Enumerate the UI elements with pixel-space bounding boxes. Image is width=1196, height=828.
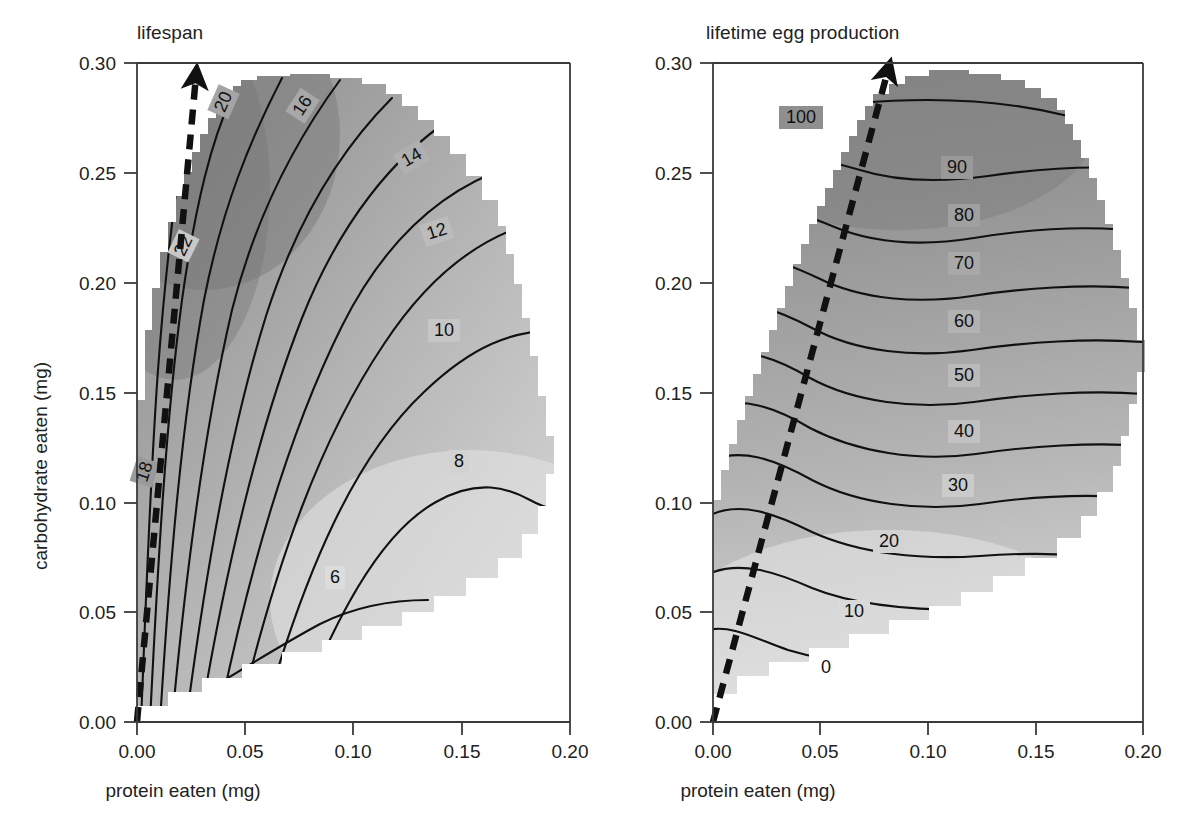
plot-svg-left: 22 20 16 14 12 [0, 0, 598, 828]
contour-label: 0 [821, 657, 831, 677]
contour-label: 10 [434, 320, 454, 340]
svg-text:0.25: 0.25 [79, 163, 116, 184]
svg-text:0.05: 0.05 [802, 741, 839, 762]
svg-text:0.15: 0.15 [1018, 741, 1055, 762]
x-tick-labels-right: 0.00 0.05 0.10 0.15 0.20 [695, 741, 1162, 762]
x-ticks-left [137, 722, 570, 735]
svg-text:0.10: 0.10 [79, 493, 116, 514]
svg-text:0.15: 0.15 [444, 741, 481, 762]
x-ticks-right [713, 722, 1143, 735]
contour-label: 8 [454, 451, 464, 471]
contour-label: 30 [948, 475, 968, 495]
svg-text:0.30: 0.30 [655, 53, 692, 74]
y-ticks-left [124, 63, 137, 722]
svg-text:0.10: 0.10 [335, 741, 372, 762]
plot-svg-right: 100 90 80 70 60 [598, 0, 1196, 828]
y-tick-labels-right: 0.00 0.05 0.10 0.15 0.20 0.25 0.30 [655, 53, 692, 733]
svg-text:0.25: 0.25 [655, 163, 692, 184]
contour-label: 60 [954, 311, 974, 331]
svg-text:0.20: 0.20 [1125, 741, 1162, 762]
contour-label: 80 [954, 205, 974, 225]
svg-text:0.00: 0.00 [655, 712, 692, 733]
contour-label: 50 [954, 365, 974, 385]
contour-label: 6 [330, 567, 340, 587]
figure-root: lifespan protein eaten (mg) carbohydrate… [0, 0, 1196, 828]
svg-text:0.20: 0.20 [552, 741, 589, 762]
svg-text:0.10: 0.10 [655, 493, 692, 514]
svg-text:0.05: 0.05 [655, 602, 692, 623]
contour-label: 70 [954, 253, 974, 273]
svg-text:0.20: 0.20 [79, 273, 116, 294]
svg-text:0.00: 0.00 [79, 712, 116, 733]
svg-text:0.00: 0.00 [695, 741, 732, 762]
surface-shading-right [668, 10, 1151, 750]
svg-text:0.05: 0.05 [227, 741, 264, 762]
svg-text:0.05: 0.05 [79, 602, 116, 623]
svg-text:0.20: 0.20 [655, 273, 692, 294]
svg-text:0.15: 0.15 [655, 383, 692, 404]
contour-label: 40 [954, 421, 974, 441]
y-tick-labels-left: 0.00 0.05 0.10 0.15 0.20 0.25 0.30 [79, 53, 116, 733]
y-ticks-right [700, 63, 713, 722]
contour-label: 90 [947, 157, 967, 177]
svg-text:0.00: 0.00 [119, 741, 156, 762]
x-tick-labels-left: 0.00 0.05 0.10 0.15 0.20 [119, 741, 589, 762]
contour-label: 10 [844, 601, 864, 621]
panel-lifespan: lifespan protein eaten (mg) carbohydrate… [0, 0, 598, 828]
svg-text:0.15: 0.15 [79, 383, 116, 404]
svg-text:0.30: 0.30 [79, 53, 116, 74]
contour-label: 100 [786, 107, 816, 127]
panel-lifetime-egg-production: lifetime egg production protein eaten (m… [598, 0, 1196, 828]
surface-shading-left [70, 0, 670, 750]
svg-text:0.10: 0.10 [910, 741, 947, 762]
contour-label: 20 [879, 531, 899, 551]
